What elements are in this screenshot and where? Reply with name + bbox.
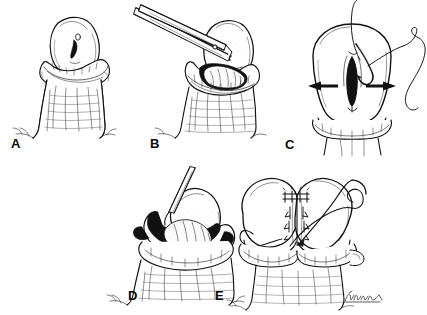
figure-artwork — [0, 0, 427, 315]
panel-label-a: A — [11, 137, 21, 150]
artist-signature-mark — [344, 290, 384, 304]
panel-label-c: C — [285, 138, 295, 151]
artist-signature — [344, 290, 384, 304]
panel-label-d: D — [128, 289, 138, 302]
panel-label-b: B — [150, 137, 160, 150]
surgical-technique-figure — [0, 0, 427, 315]
panel-label-e: E — [215, 289, 224, 302]
